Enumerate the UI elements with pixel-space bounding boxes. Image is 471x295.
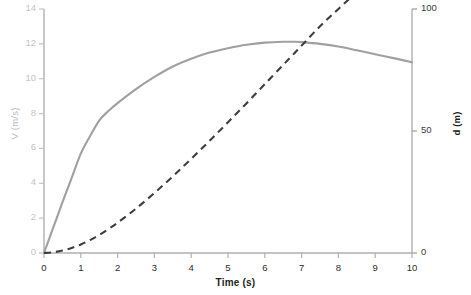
left-tick-label: 12 [10, 37, 36, 48]
bottom-tick-label: 4 [176, 262, 206, 273]
bottom-tick-label: 9 [360, 262, 390, 273]
right-axis-title: d (m) [451, 94, 462, 154]
velocity-curve [44, 42, 412, 253]
bottom-tick-label: 0 [29, 262, 59, 273]
left-tick-label: 10 [10, 72, 36, 83]
left-tick-label: 2 [10, 211, 36, 222]
chart-canvas [0, 0, 471, 295]
right-tick-label: 100 [421, 2, 451, 13]
bottom-tick-label: 5 [213, 262, 243, 273]
left-tick-label: 0 [10, 246, 36, 257]
right-tick-label: 0 [421, 246, 451, 257]
left-axis-ticks [39, 9, 44, 253]
distance-curve [44, 0, 412, 253]
bottom-tick-label: 8 [323, 262, 353, 273]
bottom-tick-label: 6 [250, 262, 280, 273]
left-tick-label: 4 [10, 176, 36, 187]
bottom-tick-label: 10 [397, 262, 427, 273]
bottom-tick-label: 2 [103, 262, 133, 273]
bottom-tick-label: 7 [287, 262, 317, 273]
right-tick-label: 50 [421, 124, 451, 135]
right-axis-ticks [412, 9, 417, 253]
bottom-axis-ticks [44, 253, 412, 258]
left-tick-label: 6 [10, 141, 36, 152]
bottom-axis-title: Time (s) [0, 277, 471, 288]
bottom-tick-label: 1 [66, 262, 96, 273]
chart-container: V (m/s) d (m) Time (s) 02468101214 05010… [0, 0, 471, 295]
bottom-tick-label: 3 [139, 262, 169, 273]
left-tick-label: 14 [10, 2, 36, 13]
left-tick-label: 8 [10, 107, 36, 118]
axis-lines [44, 9, 412, 253]
